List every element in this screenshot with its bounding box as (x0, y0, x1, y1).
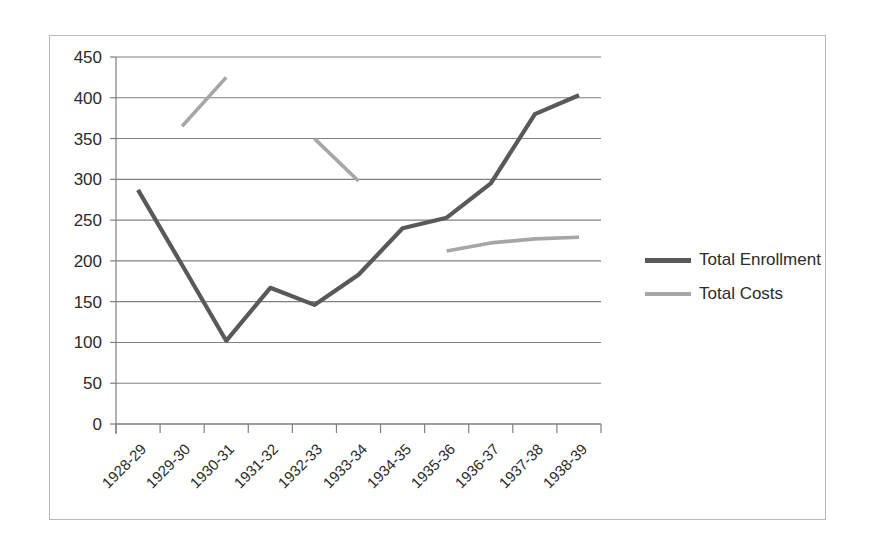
chart-legend: Total Enrollment Total Costs (645, 243, 825, 311)
legend-item-total-enrollment: Total Enrollment (645, 243, 825, 277)
y-tick-label: 350 (54, 131, 102, 148)
axis-lines (116, 57, 601, 434)
y-tick-label: 300 (54, 171, 102, 188)
legend-item-total-costs: Total Costs (645, 277, 825, 311)
y-tick-label: 250 (54, 212, 102, 229)
y-tick-label: 50 (54, 375, 102, 392)
series-line-total-costs (182, 77, 226, 126)
x-axis-ticks (116, 424, 601, 433)
y-tick-label: 400 (54, 90, 102, 107)
y-tick-label: 0 (54, 416, 102, 433)
y-tick-label: 100 (54, 334, 102, 351)
y-tick-label: 200 (54, 253, 102, 270)
series-line-total-costs (314, 139, 358, 181)
legend-label-total-enrollment: Total Enrollment (699, 250, 821, 270)
chart-canvas: 450400350300250200150100500 1928-291929-… (0, 0, 871, 550)
y-tick-label: 150 (54, 294, 102, 311)
y-axis-ticks (110, 57, 116, 424)
legend-swatch-total-enrollment (645, 258, 691, 263)
legend-swatch-total-costs (645, 292, 691, 296)
series-line-total-costs (447, 237, 579, 251)
series-line-total-enrollment (138, 95, 579, 340)
legend-label-total-costs: Total Costs (699, 284, 783, 304)
y-tick-label: 450 (54, 49, 102, 66)
